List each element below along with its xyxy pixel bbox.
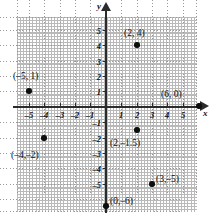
gridline-vertical — [29, 0, 30, 195]
data-point-label--5-1: (–5, 1) — [13, 71, 38, 81]
data-point-label-3--5: (3,–5) — [156, 174, 179, 184]
x-tick-mark — [121, 103, 122, 107]
y-tick-mark — [103, 76, 107, 77]
y-tick-label--1: –1 — [87, 118, 101, 128]
y-tick-mark — [103, 45, 107, 46]
data-point--5-1 — [26, 88, 32, 94]
data-point-2--1.5 — [134, 127, 140, 133]
x-axis-line — [13, 106, 202, 108]
y-tick-mark — [103, 30, 107, 31]
x-tick-mark — [183, 103, 184, 107]
x-tick-mark — [29, 103, 30, 107]
gridline-vertical — [121, 0, 122, 195]
x-tick-label-1: 1 — [114, 110, 128, 120]
gridline-vertical — [196, 0, 197, 195]
y-tick-mark — [103, 61, 107, 62]
y-tick-label--4: –4 — [87, 164, 101, 174]
gridline-vertical — [183, 0, 184, 195]
x-tick-mark — [90, 103, 91, 107]
x-axis-label: x — [203, 108, 208, 118]
x-tick-mark — [167, 103, 168, 107]
x-tick-mark — [60, 103, 61, 107]
data-point-label-6-0: (6, 0) — [161, 89, 182, 99]
x-tick-label--2: –2 — [68, 110, 82, 120]
data-point-3--5 — [149, 181, 155, 187]
data-point--4--2 — [41, 135, 47, 141]
y-axis-label: y — [97, 1, 101, 11]
y-tick-label-3: 3 — [87, 57, 101, 67]
x-tick-label-4: 4 — [160, 110, 174, 120]
data-point-label-0--6: (0,–6) — [110, 196, 133, 206]
x-tick-label--5: –5 — [22, 110, 36, 120]
y-tick-mark — [103, 91, 107, 92]
x-tick-mark — [44, 103, 45, 107]
y-tick-mark — [103, 168, 107, 169]
y-tick-label-1: 1 — [87, 87, 101, 97]
y-tick-mark — [103, 153, 107, 154]
x-tick-label--3: –3 — [53, 110, 67, 120]
y-tick-mark — [103, 122, 107, 123]
y-tick-label-2: 2 — [87, 72, 101, 82]
x-tick-mark — [137, 103, 138, 107]
x-tick-label-5: 5 — [176, 110, 190, 120]
x-tick-label-2: 2 — [130, 110, 144, 120]
gridline-vertical — [60, 0, 61, 195]
gridline-vertical — [75, 0, 76, 195]
y-tick-mark — [103, 184, 107, 185]
gridline-vertical — [152, 0, 153, 195]
y-tick-label-5: 5 — [87, 26, 101, 36]
data-point-2-4 — [134, 42, 140, 48]
gridline-vertical — [44, 0, 45, 195]
y-tick-label-4: 4 — [87, 41, 101, 51]
gridline-vertical — [17, 0, 18, 195]
y-axis-line — [105, 6, 107, 213]
x-tick-mark — [75, 103, 76, 107]
y-tick-label--2: –2 — [87, 134, 101, 144]
y-axis-arrow-icon — [101, 2, 111, 11]
y-tick-mark — [103, 138, 107, 139]
y-tick-label--3: –3 — [87, 149, 101, 159]
x-tick-mark — [152, 103, 153, 107]
x-tick-label-3: 3 — [145, 110, 159, 120]
data-point-0--6 — [103, 203, 109, 209]
data-point-label-2-4: (2, 4) — [124, 28, 145, 38]
data-point-label--4--2: (–4,–2) — [11, 150, 39, 160]
data-point-label-2--1.5: (2,–1.5) — [110, 138, 140, 148]
x-tick-label--4: –4 — [37, 110, 51, 120]
data-point-6-0 — [196, 103, 202, 109]
gridline-horizontal — [0, 199, 180, 200]
coordinate-plane-figure: x y –5 –4 –3 –2 –1 1 2 3 4 5 5 4 3 2 1 –… — [0, 0, 214, 219]
gridline-horizontal — [0, 211, 180, 212]
y-tick-label--5: –5 — [87, 180, 101, 190]
